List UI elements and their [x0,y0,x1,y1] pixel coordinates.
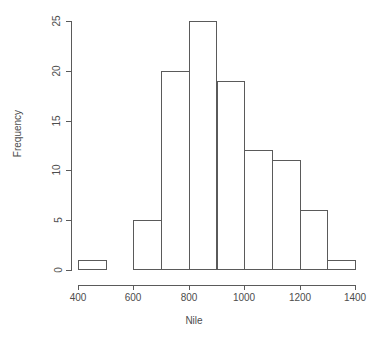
x-tick-label: 1000 [233,292,255,304]
plot-area [78,21,355,270]
y-tick-label: 10 [0,165,62,175]
x-tick-mark [355,285,356,290]
x-tick-mark [300,285,301,290]
y-tick-label: 5 [0,215,62,225]
y-tick-mark [66,270,71,271]
y-tick-label: 20 [0,66,62,76]
x-tick-label: 400 [70,292,87,304]
y-tick-mark [66,121,71,122]
y-axis-title: Frequency [12,79,23,189]
y-tick-mark [66,170,71,171]
y-axis-line [71,21,72,271]
histogram-bar [189,21,218,270]
x-axis-line [78,285,356,286]
x-tick-label: 800 [181,292,198,304]
histogram-bar [133,220,162,270]
x-tick-mark [189,285,190,290]
y-tick-label: 0 [0,265,62,275]
x-axis-title: Nile [0,315,388,326]
x-tick-mark [78,285,79,290]
y-tick-mark [66,21,71,22]
x-tick-mark [244,285,245,290]
histogram-bar [300,210,329,270]
histogram-bar [272,160,301,270]
x-tick-label: 1200 [289,292,311,304]
histogram-bar [161,71,190,270]
histogram-bar [78,260,107,270]
x-tick-label: 1400 [344,292,366,304]
histogram-bar [244,150,273,270]
histogram-bar [217,81,246,270]
y-tick-label: 25 [0,16,62,26]
y-tick-mark [66,71,71,72]
histogram-plot: 0510152025 Frequency 4006008001000120014… [0,0,388,346]
x-tick-label: 600 [125,292,142,304]
y-tick-mark [66,220,71,221]
y-tick-label: 15 [0,116,62,126]
histogram-bar [327,260,356,270]
x-tick-mark [133,285,134,290]
